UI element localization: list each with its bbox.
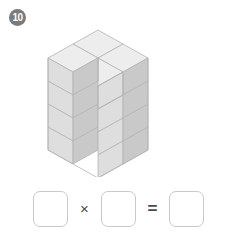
isometric-cube-stack (38, 22, 158, 177)
equals-icon: = (145, 200, 160, 217)
factor2-answer-box[interactable] (101, 191, 136, 227)
multiply-icon: × (77, 201, 92, 216)
worksheet-page: 10 (0, 0, 237, 248)
product-answer-box[interactable] (169, 191, 204, 227)
factor1-answer-box[interactable] (33, 191, 68, 227)
cube-stack-svg (38, 22, 158, 177)
problem-number-badge: 10 (9, 9, 26, 26)
equation-row: × = (0, 186, 237, 231)
